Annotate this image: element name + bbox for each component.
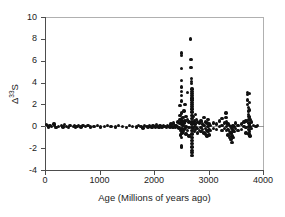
data-point xyxy=(189,37,192,40)
y-tick-label: 6 xyxy=(11,56,37,65)
axis-top-spine xyxy=(45,17,264,18)
data-point xyxy=(224,116,227,119)
data-point xyxy=(248,101,251,104)
y-axis-title-delta: Δ xyxy=(9,98,20,104)
y-tick-mark xyxy=(41,126,45,127)
y-tick-label: -4 xyxy=(11,166,37,175)
data-point xyxy=(99,125,102,128)
y-tick-mark xyxy=(41,61,45,62)
data-point xyxy=(180,145,183,148)
y-tick-mark xyxy=(41,148,45,149)
data-point xyxy=(109,125,112,128)
y-tick-mark xyxy=(41,83,45,84)
scatter-chart-figure: -4-20246810 01000200030004000 Δ33S Age (… xyxy=(0,0,285,217)
y-tick-label: -2 xyxy=(11,144,37,153)
y-axis-title-element: S xyxy=(9,84,20,90)
data-point xyxy=(194,113,197,116)
data-point xyxy=(180,136,183,139)
data-point xyxy=(180,99,183,102)
axis-right-spine xyxy=(263,17,264,171)
x-tick-label: 1000 xyxy=(80,176,120,185)
y-tick-mark xyxy=(41,17,45,18)
data-point xyxy=(183,103,186,106)
x-axis-title: Age (Millions of years ago) xyxy=(45,192,264,203)
x-tick-label: 4000 xyxy=(243,176,283,185)
y-tick-label: 10 xyxy=(11,13,37,22)
data-point xyxy=(180,90,183,93)
data-point xyxy=(248,134,251,137)
data-point xyxy=(248,108,251,111)
y-tick-mark xyxy=(41,104,45,105)
y-axis-title: Δ33S xyxy=(8,66,20,122)
data-point xyxy=(230,141,233,144)
data-point xyxy=(189,66,192,69)
data-point xyxy=(178,104,181,107)
y-tick-mark xyxy=(41,39,45,40)
x-tick-label: 0 xyxy=(25,176,65,185)
plot-area xyxy=(45,17,263,170)
data-point xyxy=(180,85,183,88)
axis-left-spine xyxy=(45,17,46,171)
data-point xyxy=(186,91,189,94)
y-axis-title-superscript: 33 xyxy=(8,90,15,97)
y-tick-label: 0 xyxy=(11,122,37,131)
data-point xyxy=(224,111,227,114)
data-point xyxy=(231,136,234,139)
data-point xyxy=(180,79,183,82)
x-tick-label: 2000 xyxy=(134,176,174,185)
data-point xyxy=(207,133,210,136)
data-point xyxy=(121,125,124,128)
x-tick-label: 3000 xyxy=(189,176,229,185)
data-point xyxy=(182,109,185,112)
data-point xyxy=(180,54,183,57)
data-point xyxy=(180,67,183,70)
y-tick-label: 8 xyxy=(11,34,37,43)
data-point xyxy=(189,58,192,61)
